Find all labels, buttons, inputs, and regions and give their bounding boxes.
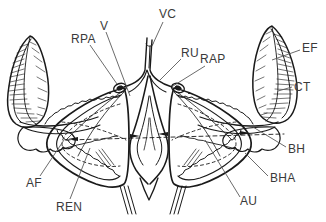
- leader-line-ru: [160, 59, 181, 80]
- leader-line-af: [40, 140, 64, 176]
- left-lobe: [45, 88, 129, 187]
- lobe-base-hatching: [96, 149, 202, 168]
- label-BH: BH: [288, 143, 305, 155]
- leader-line-bha: [245, 153, 268, 176]
- label-EF: EF: [302, 42, 318, 54]
- label-RU: RU: [181, 47, 199, 59]
- label-V: V: [100, 20, 108, 32]
- central-vessel: [124, 38, 172, 92]
- leader-line-vc: [152, 22, 163, 46]
- right-connecting-arm: [198, 117, 278, 134]
- label-AU: AU: [240, 195, 257, 207]
- label-VC: VC: [159, 8, 176, 20]
- leader-line-rap: [173, 66, 205, 86]
- bottom-stalks: [120, 178, 186, 214]
- diagram-canvas: [0, 0, 326, 222]
- label-RAP: RAP: [200, 53, 226, 65]
- label-CT: CT: [294, 81, 311, 93]
- median-sac: [130, 76, 168, 184]
- right-lobe: [169, 88, 253, 187]
- label-RPA: RPA: [71, 33, 96, 45]
- anatomical-diagram: V VC RPA RU RAP EF CT BH BHA AU AF REN: [0, 0, 326, 222]
- label-REN: REN: [56, 201, 82, 213]
- right-filament-blade: [253, 26, 297, 123]
- label-AF: AF: [26, 177, 42, 189]
- left-filament-blade: [8, 36, 49, 127]
- label-BHA: BHA: [270, 172, 296, 184]
